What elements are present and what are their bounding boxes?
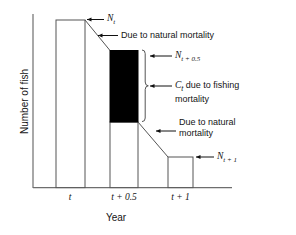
leader-n-t — [87, 18, 104, 22]
fisheries-population-diagram: Number of fish Year t t + 0.5 t + 1 Nt D… — [0, 0, 296, 235]
annotation-natural-mortality-upper: Due to natural mortality — [121, 30, 214, 41]
leader-catch — [150, 84, 172, 88]
annotation-natural-mortality-lower: Due to natural mortality — [179, 117, 236, 138]
bar-t-plus-half-catch-block — [110, 51, 138, 123]
annotation-n-t-subscript: t — [113, 18, 115, 26]
y-axis-title: Number of fish — [19, 42, 30, 162]
x-tick-label-t-plus-half: t + 0.5 — [100, 192, 148, 202]
annotation-natural-mortality-lower-line2: mortality — [179, 128, 213, 138]
leader-natural-mortality-upper — [98, 34, 118, 38]
annotation-n-t: Nt — [107, 13, 115, 27]
bar-t-plus-half-survivors — [110, 122, 138, 188]
leader-n-t-plus-one — [196, 155, 214, 159]
x-tick-label-t-plus-one: t + 1 — [158, 192, 203, 202]
catch-brace — [142, 50, 148, 122]
x-tick-label-t: t — [50, 192, 90, 202]
caption-remnant — [8, 227, 188, 233]
annotation-catch-line2: mortality — [175, 94, 209, 104]
bar-t-plus-one — [168, 157, 193, 188]
bar-t — [56, 20, 85, 188]
annotation-n-t-plus-one-subscript: t + 1 — [223, 156, 237, 164]
leader-n-t-plus-half — [150, 54, 172, 58]
annotation-n-t-plus-half-subscript: t + 0.5 — [181, 55, 200, 63]
natural-mortality-slope-lower — [138, 122, 168, 157]
annotation-n-t-plus-one: Nt + 1 — [217, 151, 237, 165]
x-axis-title: Year — [0, 212, 232, 223]
annotation-n-t-plus-half: Nt + 0.5 — [175, 50, 200, 64]
leader-natural-mortality-lower — [156, 129, 176, 133]
annotation-catch: Ct due to fishing mortality — [175, 80, 239, 105]
annotation-natural-mortality-lower-line1: Due to natural — [179, 117, 236, 127]
annotation-catch-line1: due to fishing — [183, 80, 239, 90]
